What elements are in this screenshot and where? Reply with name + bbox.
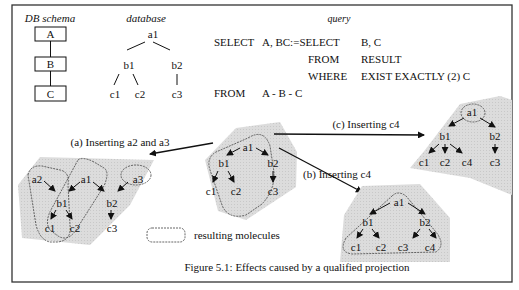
node-c3: c3: [490, 156, 501, 168]
node-a1: a1: [467, 106, 477, 118]
db-node-c3: c3: [172, 88, 183, 100]
node-b1: b1: [440, 130, 451, 142]
db-node-c2: c2: [135, 88, 145, 100]
db-node-c1: c1: [110, 88, 120, 100]
schema-box-a-label: A: [47, 28, 55, 40]
query-select-arg: A, BC:=SELECT: [262, 36, 340, 48]
case-b-graph: a1 b1 b2 c1 c2 c3 c4: [340, 184, 450, 262]
case-b-label: (b) Inserting c4: [303, 168, 371, 181]
node-b2: b2: [268, 157, 279, 169]
node-c1: c1: [45, 222, 55, 234]
node-c2: c2: [376, 241, 386, 253]
legend-swatch: [147, 228, 185, 242]
node-b1: b1: [219, 157, 230, 169]
figure-caption: Figure 5.1: Effects caused by a qualifie…: [184, 261, 410, 273]
node-c4: c4: [462, 156, 473, 168]
legend-label: resulting molecules: [194, 229, 280, 241]
node-b1: b1: [363, 216, 374, 228]
node-b2: b2: [107, 197, 118, 209]
node-a2: a2: [32, 173, 42, 185]
shaded-region: [205, 122, 297, 220]
node-b2: b2: [490, 130, 501, 142]
node-c3: c3: [398, 241, 409, 253]
case-a-label: (a) Inserting a2 and a3: [71, 136, 170, 149]
database-title: database: [126, 12, 166, 24]
node-c3: c3: [107, 222, 118, 234]
shaded-region: [18, 157, 154, 245]
query-select-kw: SELECT: [214, 36, 255, 48]
query-from-arg: RESULT: [361, 53, 402, 65]
query-title: query: [328, 13, 351, 24]
node-c2: c2: [231, 185, 241, 197]
query-outer-from-arg: A - B - C: [262, 87, 302, 99]
node-a1: a1: [394, 196, 404, 208]
node-c4: c4: [425, 241, 436, 253]
query-where-arg: EXIST EXACTLY (2) C: [361, 70, 470, 83]
node-c2: c2: [70, 222, 80, 234]
db-node-b2: b2: [172, 59, 183, 71]
node-a1: a1: [81, 173, 91, 185]
arrow-to-case-c: [274, 134, 424, 135]
node-c1: c1: [206, 185, 216, 197]
center-graph: a1 b1 b2 c1 c2 c3: [205, 122, 297, 220]
node-c1: c1: [419, 156, 429, 168]
query-block: query SELECT A, BC:=SELECT B, C FROM RES…: [214, 13, 470, 99]
figure-canvas: DB schema A B C database a1 b1 b2 c1 c2 …: [0, 0, 519, 290]
query-where-kw: WHERE: [308, 70, 347, 82]
db-node-a1: a1: [148, 28, 158, 40]
schema-title: DB schema: [24, 12, 76, 24]
node-c3: c3: [268, 185, 279, 197]
node-b1: b1: [57, 197, 68, 209]
query-from-kw: FROM: [308, 53, 339, 65]
query-select-arg2: B, C: [361, 36, 381, 48]
node-c1: c1: [351, 241, 361, 253]
db-schema: DB schema A B C: [24, 12, 76, 101]
node-a3: a3: [133, 173, 144, 185]
case-a-graph: a2 a1 a3 b1 b2 c1 c2 c3: [18, 157, 154, 245]
case-c-label: (c) Inserting c4: [332, 118, 400, 131]
case-c-graph: a1 b1 b2 c1 c2 c4 c3: [410, 96, 512, 195]
schema-box-c-label: C: [47, 88, 54, 100]
node-c2: c2: [440, 156, 450, 168]
shaded-region: [410, 96, 512, 195]
legend: resulting molecules: [147, 228, 280, 242]
db-node-b1: b1: [124, 59, 135, 71]
database-tree: database a1 b1 b2 c1 c2 c3: [110, 12, 183, 100]
node-a1: a1: [243, 141, 253, 153]
schema-box-b-label: B: [47, 58, 54, 70]
node-b2: b2: [420, 216, 431, 228]
query-outer-from-kw: FROM: [214, 87, 245, 99]
